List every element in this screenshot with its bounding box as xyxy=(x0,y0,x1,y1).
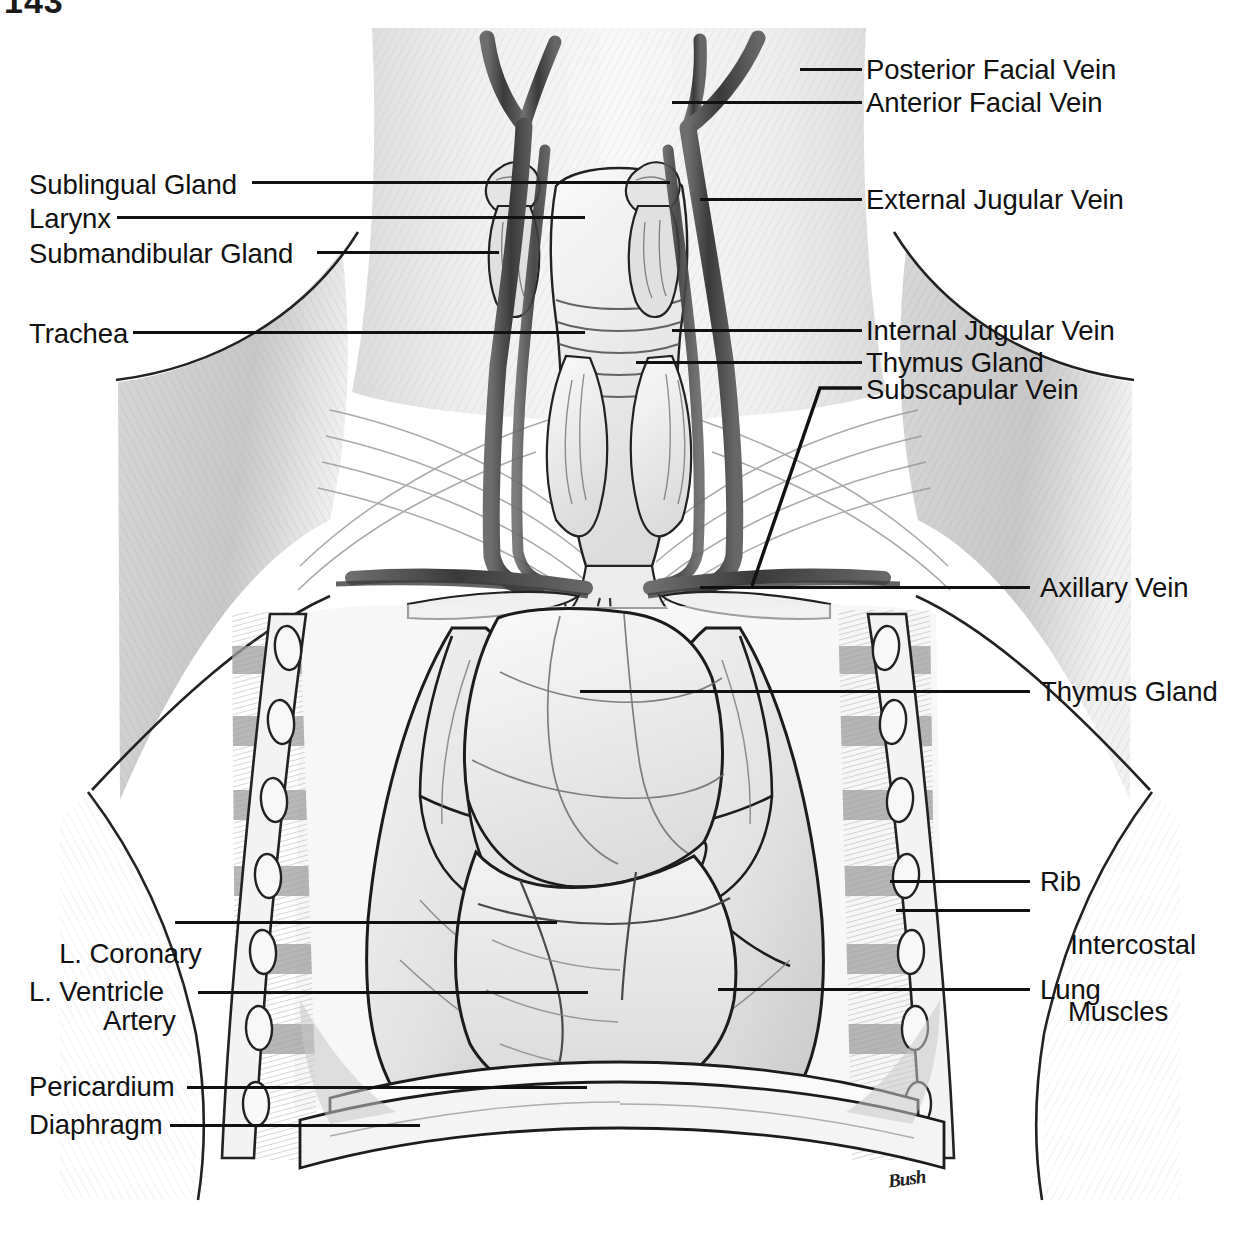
label-anterior-facial-vein: Anterior Facial Vein xyxy=(866,86,1102,120)
label-thymus-gland-chest: Thymus Gland xyxy=(1040,675,1218,709)
label-posterior-facial-vein: Posterior Facial Vein xyxy=(866,53,1116,87)
label-l-coronary-artery-line1: L. Coronary xyxy=(59,938,202,969)
label-diaphragm: Diaphragm xyxy=(29,1108,163,1142)
label-external-jugular-vein: External Jugular Vein xyxy=(866,183,1124,217)
label-submandibular-gland: Submandibular Gland xyxy=(29,237,293,271)
label-trachea: Trachea xyxy=(29,317,128,351)
label-internal-jugular-vein: Internal Jugular Vein xyxy=(866,314,1115,348)
label-sublingual-gland: Sublingual Gland xyxy=(29,168,237,202)
label-subscapular-vein: Subscapular Vein xyxy=(866,373,1078,407)
label-intercostal-muscles-line1: Intercostal xyxy=(1070,929,1196,960)
label-l-ventricle: L. Ventricle xyxy=(29,975,164,1009)
label-axillary-vein: Axillary Vein xyxy=(1040,571,1189,605)
label-larynx: Larynx xyxy=(29,202,111,236)
label-l-coronary-artery-line2: Artery xyxy=(29,1004,202,1038)
label-lung: Lung xyxy=(1040,973,1101,1007)
anatomical-plate: 143 xyxy=(0,0,1238,1234)
label-pericardium: Pericardium xyxy=(29,1070,175,1104)
